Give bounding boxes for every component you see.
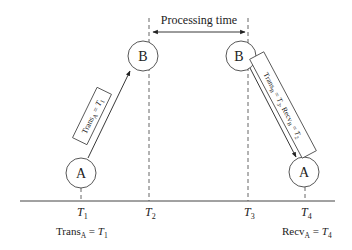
tick-label-t1: T1	[77, 205, 88, 221]
request-label-box: TransA = T1	[73, 87, 112, 144]
tick-label-t3: T3	[244, 205, 255, 221]
processing-time-label: Processing time	[161, 13, 237, 27]
node-a-right-label: A	[299, 165, 310, 180]
node-b-right-label: B	[234, 49, 243, 64]
recv-a-equation: RecvA = T4	[282, 225, 332, 240]
node-b-left-label: B	[138, 49, 147, 64]
node-a-left-label: A	[76, 166, 87, 181]
tick-label-t2: T2	[145, 205, 156, 221]
node-a-right: A	[289, 157, 319, 187]
node-a-left: A	[66, 158, 96, 188]
tick-label-t4: T4	[301, 205, 312, 221]
node-b-right: B	[226, 41, 256, 71]
node-b-left: B	[128, 41, 158, 71]
trans-a-equation: TransA = T1	[56, 225, 108, 240]
ntp-timing-diagram: Processing time A B B A TransA = T1 Tran…	[0, 0, 352, 250]
reply-label-box: TransB = T3, RecvB = T2	[250, 52, 317, 158]
